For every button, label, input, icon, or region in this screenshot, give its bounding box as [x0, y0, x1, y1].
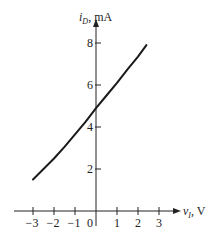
- x-ticks: −3−2−10123: [26, 207, 162, 230]
- x-axis-arrow-icon: [173, 208, 181, 214]
- x-tick-label: 1: [114, 216, 120, 230]
- x-tick-label: −1: [68, 216, 81, 230]
- x-tick-label: −2: [47, 216, 60, 230]
- y-tick-label: 8: [87, 36, 93, 50]
- y-axis-label: iD, mA: [79, 10, 112, 26]
- y-tick-label: 2: [87, 162, 93, 176]
- x-axis-label: vI, V: [183, 204, 206, 220]
- y-tick-label: 4: [87, 120, 93, 134]
- x-tick-label: −3: [26, 216, 39, 230]
- chart: −3−2−10123 2468 iD, mA vI, V: [0, 0, 213, 237]
- x-tick-label: 0: [87, 216, 93, 230]
- x-tick-label: 3: [156, 216, 162, 230]
- y-tick-label: 6: [87, 78, 93, 92]
- x-tick-label: 2: [135, 216, 141, 230]
- data-curve: [33, 45, 146, 179]
